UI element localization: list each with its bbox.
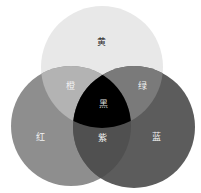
label-red: 红 (36, 131, 45, 142)
label-orange: 橙 (66, 80, 75, 91)
label-purple: 紫 (98, 133, 107, 143)
label-blue: 蓝 (152, 131, 161, 142)
label-green: 绿 (138, 80, 147, 91)
venn-diagram: 黄 橙 绿 黑 红 紫 蓝 (0, 0, 201, 193)
label-yellow: 黄 (97, 36, 106, 47)
label-black: 黑 (99, 99, 108, 109)
